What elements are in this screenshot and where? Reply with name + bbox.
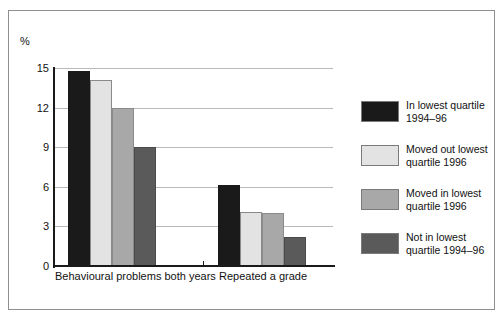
bar-g1-s0 xyxy=(218,185,240,266)
chart-figure: % 03691215 Behavioural problems both yea… xyxy=(0,0,504,321)
legend-item-1[interactable]: Moved out lowestquartile 1996 xyxy=(361,145,491,189)
bar-g0-s1 xyxy=(90,80,112,266)
legend-swatch-2 xyxy=(361,189,399,210)
bar-g0-s3 xyxy=(134,147,156,266)
legend-item-0[interactable]: In lowest quartile1994–96 xyxy=(361,101,491,145)
legend-label-line1-0: In lowest quartile xyxy=(406,99,492,112)
y-tick-label-6: 6 xyxy=(3,182,49,193)
legend-item-2[interactable]: Moved in lowestquartile 1996 xyxy=(361,189,491,233)
legend-item-3[interactable]: Not in lowestquartile 1994–96 xyxy=(361,233,491,277)
y-tick-label-3: 3 xyxy=(3,221,49,232)
y-axis-line xyxy=(53,67,55,268)
legend-swatch-0 xyxy=(361,101,399,122)
x-axis-group-label-1: Repeated a grade xyxy=(219,270,307,283)
y-tick-label-0: 0 xyxy=(3,261,49,272)
legend-label-line2-0: 1994–96 xyxy=(406,112,492,125)
legend-label-line1-2: Moved in lowest xyxy=(406,187,492,200)
y-tick-label-9: 9 xyxy=(3,142,49,153)
gridline-15 xyxy=(53,68,333,69)
legend-swatch-1 xyxy=(361,145,399,166)
legend-label-line2-1: quartile 1996 xyxy=(406,156,492,169)
legend-label-line1-1: Moved out lowest xyxy=(406,143,492,156)
bar-g1-s1 xyxy=(240,212,262,266)
legend-label-line1-3: Not in lowest xyxy=(406,231,492,244)
x-axis-group-label-0: Behavioural problems both years xyxy=(55,270,216,283)
x-axis-tick-mark xyxy=(203,261,204,267)
legend-swatch-3 xyxy=(361,233,399,254)
legend-label-line2-2: quartile 1996 xyxy=(406,200,492,213)
legend-label-line2-3: quartile 1994–96 xyxy=(406,244,492,257)
bar-g0-s2 xyxy=(112,108,134,266)
y-tick-label-12: 12 xyxy=(3,103,49,114)
bar-g1-s2 xyxy=(262,213,284,266)
legend-label-1: Moved out lowestquartile 1996 xyxy=(406,143,492,169)
plot-area xyxy=(53,68,333,266)
y-tick-label-15: 15 xyxy=(3,63,49,74)
bar-g1-s3 xyxy=(284,237,306,266)
legend-label-3: Not in lowestquartile 1994–96 xyxy=(406,231,492,257)
x-axis-line xyxy=(53,265,335,267)
y-axis-tick-labels: 03691215 xyxy=(0,0,49,321)
chart-legend: In lowest quartile1994–96Moved out lowes… xyxy=(361,101,491,277)
legend-label-2: Moved in lowestquartile 1996 xyxy=(406,187,492,213)
legend-label-0: In lowest quartile1994–96 xyxy=(406,99,492,125)
bar-g0-s0 xyxy=(68,71,90,266)
